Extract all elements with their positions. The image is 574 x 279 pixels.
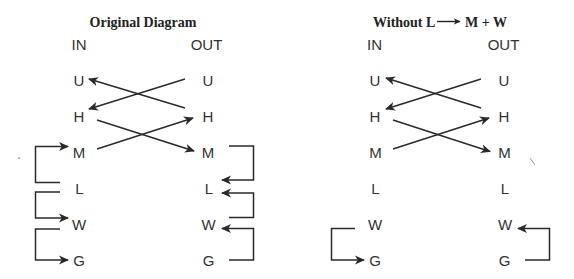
out-node-m: M: [498, 144, 511, 161]
out-node-g: G: [203, 252, 215, 269]
in-node-w: W: [368, 216, 383, 233]
scan-artifact-dot: [18, 157, 20, 159]
in-header: IN: [367, 36, 382, 53]
in-node-u: U: [370, 72, 381, 89]
bracket-arrow-in-w-to-g: [332, 229, 365, 261]
in-node-m: M: [73, 144, 86, 161]
panel-title-before: Without L: [373, 15, 435, 30]
bracket-arrow-in-l-to-m: [36, 147, 69, 183]
arrow-in-m-to-out-h: [97, 118, 193, 149]
out-node-w: W: [498, 216, 513, 233]
out-node-u: U: [203, 72, 214, 89]
panel-title-after: M + W: [465, 15, 507, 30]
out-header: OUT: [488, 36, 520, 53]
bracket-arrow-out-g-to-w: [222, 229, 254, 261]
in-node-h: H: [370, 108, 381, 125]
in-node-l: L: [371, 180, 379, 197]
bracket-arrow-out-g-to-w: [518, 229, 550, 261]
in-node-u: U: [74, 72, 85, 89]
panel-original-diagram: Original Diagram IN OUT U H M L W G U H …: [18, 15, 253, 270]
out-node-w: W: [201, 216, 216, 233]
out-node-l: L: [501, 180, 509, 197]
arrow-in-h-to-out-m: [97, 120, 194, 151]
in-node-h: H: [74, 108, 85, 125]
out-node-m: M: [202, 144, 215, 161]
panel-title: Without L M + W: [373, 15, 507, 30]
in-node-w: W: [72, 216, 87, 233]
out-node-l: L: [205, 180, 213, 197]
diagram-canvas: Original Diagram IN OUT U H M L W G U H …: [0, 0, 574, 279]
out-node-u: U: [499, 72, 510, 89]
out-node-h: H: [203, 108, 214, 125]
out-node-column: U H M L W G: [201, 72, 216, 269]
in-node-m: M: [369, 144, 382, 161]
in-node-column: U H M L W G: [368, 72, 383, 269]
in-node-l: L: [75, 180, 83, 197]
arrow-in-h-to-out-m: [393, 120, 490, 152]
scan-artifact-tick: [530, 158, 535, 165]
in-header: IN: [72, 36, 87, 53]
out-node-h: H: [499, 108, 510, 125]
panel-title: Original Diagram: [90, 15, 197, 30]
out-node-g: G: [499, 252, 511, 269]
out-node-column: U H M L W G: [498, 72, 513, 269]
arrow-out-u-to-in-h: [386, 79, 481, 109]
bracket-arrow-out-w-to-l: [222, 193, 254, 218]
bracket-arrow-in-w-to-g: [36, 229, 69, 260]
out-header: OUT: [191, 36, 223, 53]
in-node-g: G: [73, 252, 85, 269]
in-node-g: G: [369, 252, 381, 269]
arrow-in-m-to-out-h: [393, 118, 489, 149]
arrow-out-h-to-in-u: [386, 78, 481, 108]
diagram-svg: Original Diagram IN OUT U H M L W G U H …: [0, 0, 574, 279]
panel-without-l: Without L M + W IN OUT U H M L W G U H M…: [332, 15, 550, 270]
bracket-arrow-out-m-to-l: [222, 146, 254, 180]
in-node-column: U H M L W G: [72, 72, 87, 269]
bracket-arrow-in-l-to-w: [36, 192, 69, 218]
